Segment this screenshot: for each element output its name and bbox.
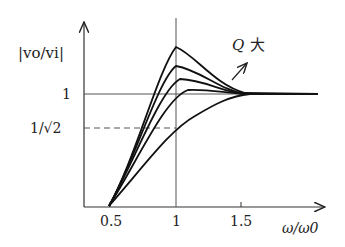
curve-q1 [109, 47, 318, 206]
y-axis-label: |vo/vi| [18, 44, 64, 62]
q-increase-arrow [232, 63, 247, 80]
y-tick-inv-sqrt2: 1/√2 [30, 120, 61, 136]
x-axis-label: ω/ω0 [282, 220, 319, 236]
y-tick-one: 1 [62, 86, 71, 102]
resonance-chart: |vo/vi| 1 1/√2 0.5 1 1.5 ω/ω0 Q 大 [0, 0, 345, 247]
x-tick-15-label: 1.5 [230, 213, 252, 229]
annotation-big: 大 [250, 36, 265, 54]
curve-q5 [109, 94, 318, 206]
curve-q4 [109, 90, 318, 206]
x-tick-1-label: 1 [172, 213, 181, 229]
annotation-q: Q [232, 36, 244, 54]
curves [109, 47, 318, 206]
x-tick-05-label: 0.5 [100, 213, 122, 229]
curve-q3 [109, 79, 318, 206]
